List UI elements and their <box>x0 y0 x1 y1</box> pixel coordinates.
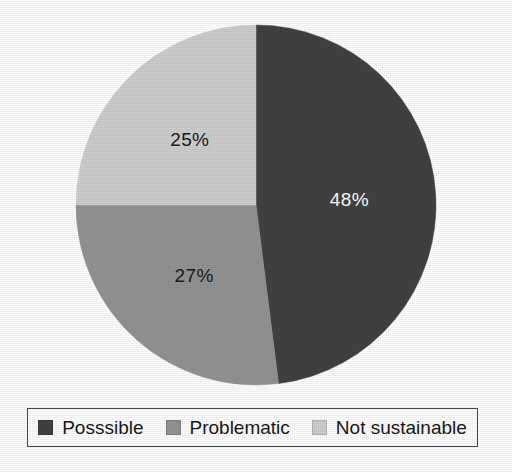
pie-slice-value-label: 48% <box>330 189 369 210</box>
legend-item-not-sustainable[interactable]: Not sustainable <box>301 418 478 437</box>
chart-legend: Posssible Problematic Not sustainable <box>27 408 478 447</box>
legend-swatch-problematic <box>166 420 181 435</box>
legend-swatch-posssible <box>38 420 53 435</box>
legend-label-posssible: Posssible <box>62 418 143 437</box>
chart-page: 48%27%25% Posssible Problematic Not sust… <box>0 0 512 472</box>
pie-chart: 48%27%25% <box>0 0 512 400</box>
legend-item-problematic[interactable]: Problematic <box>155 418 301 437</box>
pie-slice[interactable] <box>76 205 279 385</box>
legend-label-not-sustainable: Not sustainable <box>336 418 467 437</box>
pie-slice[interactable] <box>76 25 256 205</box>
pie-chart-svg: 48%27%25% <box>0 0 512 400</box>
pie-slice-group <box>76 25 436 385</box>
pie-slice-value-label: 25% <box>170 129 209 150</box>
legend-label-problematic: Problematic <box>190 418 290 437</box>
legend-item-posssible[interactable]: Posssible <box>27 418 154 437</box>
legend-swatch-not-sustainable <box>312 420 327 435</box>
pie-slice-value-label: 27% <box>174 265 213 286</box>
